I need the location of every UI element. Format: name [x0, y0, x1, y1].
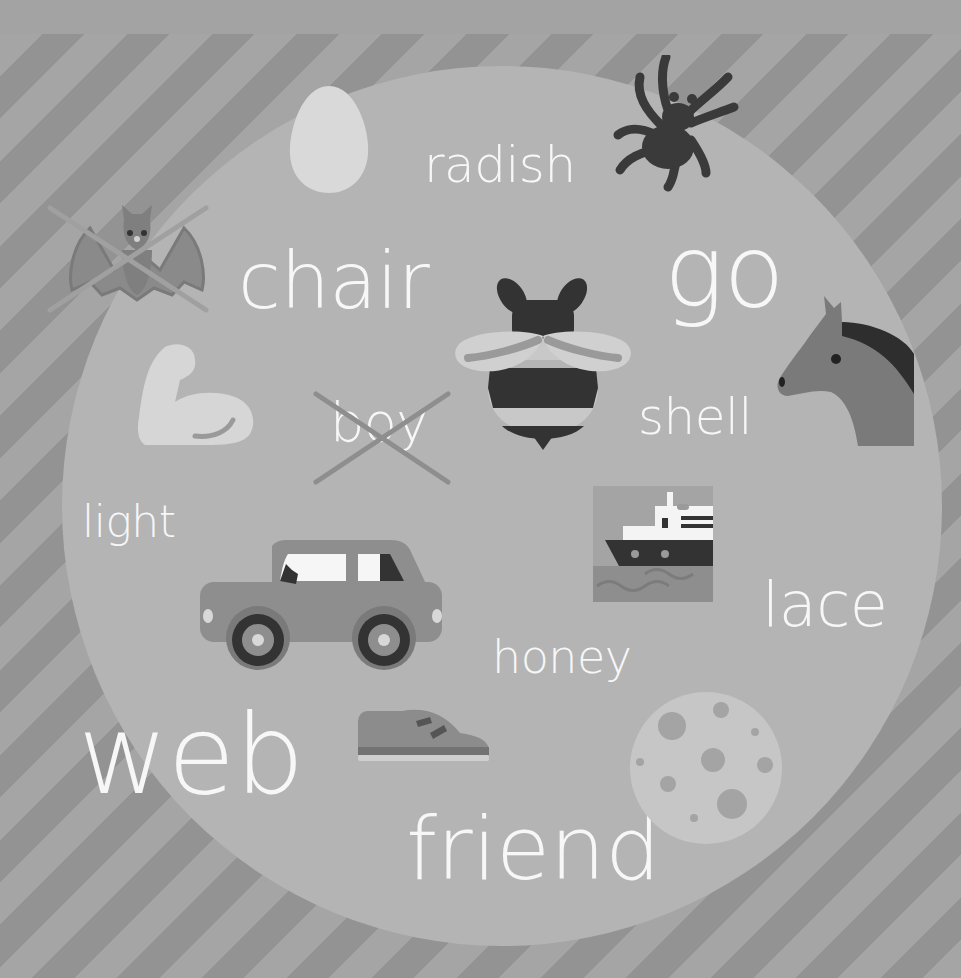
- word-web[interactable]: web: [78, 700, 304, 810]
- word-chair[interactable]: chair: [238, 242, 429, 320]
- egg-icon[interactable]: [286, 82, 372, 197]
- cross-mark-icon: [46, 204, 211, 314]
- top-band: [0, 0, 961, 34]
- cross-mark-icon: [310, 388, 455, 488]
- spider-icon[interactable]: [606, 55, 756, 195]
- word-radish[interactable]: radish: [424, 140, 576, 190]
- car-icon[interactable]: [196, 536, 446, 671]
- bee-icon[interactable]: [450, 268, 640, 453]
- word-friend[interactable]: friend: [406, 805, 660, 893]
- moon-icon[interactable]: [628, 690, 784, 846]
- word-lace[interactable]: lace: [762, 574, 887, 636]
- word-go[interactable]: go: [664, 222, 784, 322]
- horse-icon[interactable]: [776, 294, 921, 449]
- worksheet-canvas: radish chair go boy shell light lace hon…: [0, 0, 961, 978]
- word-honey[interactable]: honey: [492, 634, 631, 680]
- word-shell[interactable]: shell: [638, 392, 752, 442]
- word-light[interactable]: light: [82, 500, 176, 544]
- flexed-arm-icon[interactable]: [135, 342, 260, 447]
- shoe-icon[interactable]: [354, 701, 494, 763]
- ship-icon[interactable]: [593, 486, 713, 602]
